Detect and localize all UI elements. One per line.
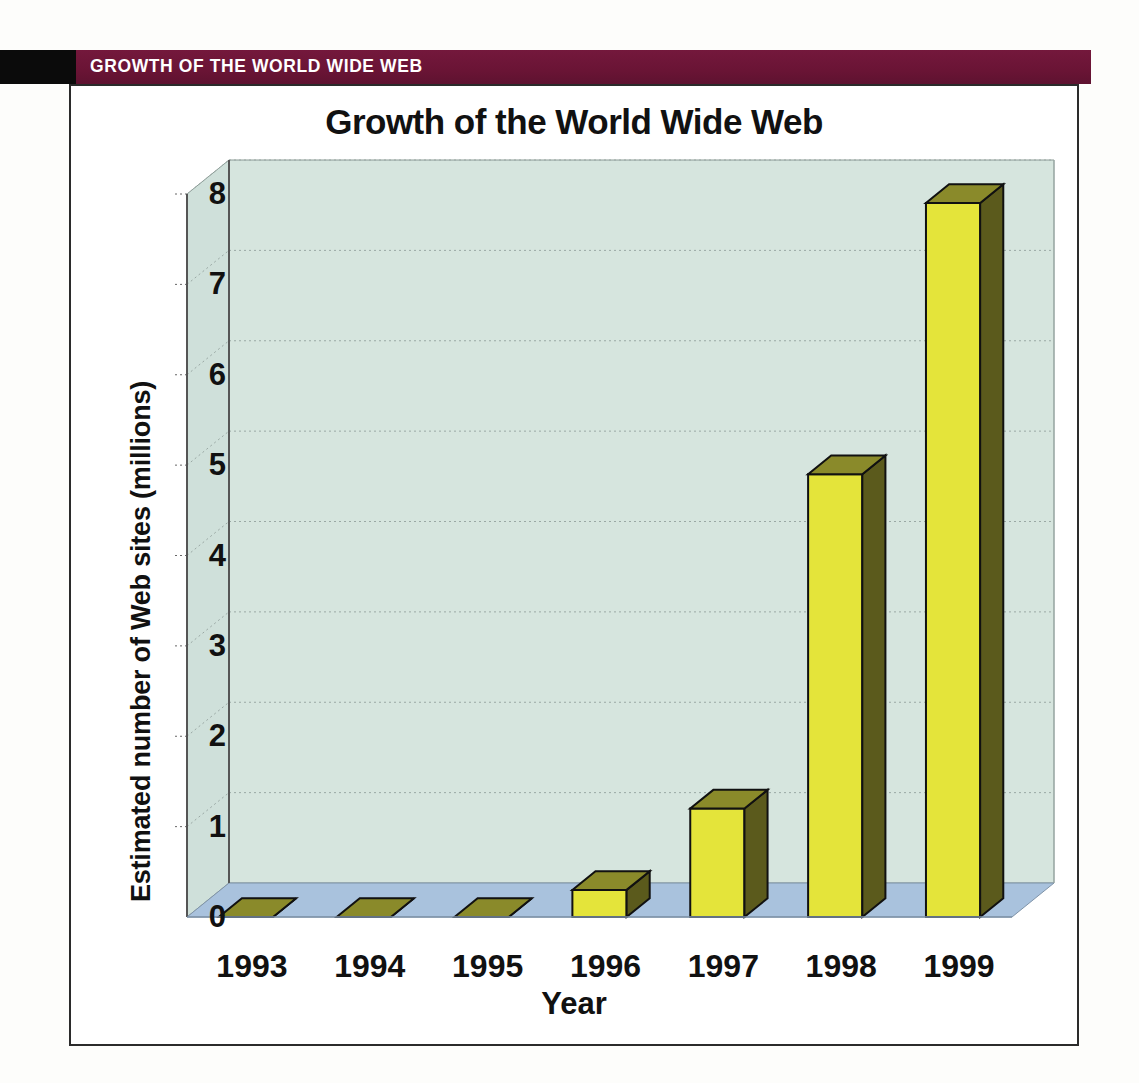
chart-frame: Growth of the World Wide Web 012345678 E… [69, 84, 1079, 1046]
header-banner: GROWTH OF THE WORLD WIDE WEB [0, 50, 1091, 84]
x-axis-tick-labels: 1993199419951996199719981999 [71, 86, 1077, 1044]
header-maroon-bar: GROWTH OF THE WORLD WIDE WEB [76, 50, 1091, 84]
header-banner-label: GROWTH OF THE WORLD WIDE WEB [90, 56, 423, 77]
header-black-block [0, 50, 76, 84]
x-tick-label-1999: 1999 [889, 948, 1029, 985]
x-axis-title: Year [71, 986, 1077, 1022]
